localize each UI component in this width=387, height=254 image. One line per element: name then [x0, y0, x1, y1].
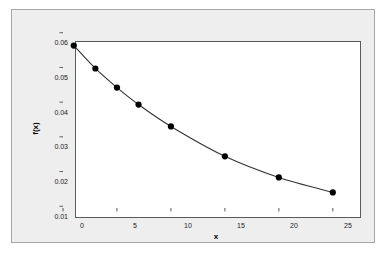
- x-tick-label-15: 15: [231, 222, 251, 230]
- x-tick-label-10: 10: [178, 222, 198, 230]
- y-tick-label-0.06: 0.06: [44, 39, 68, 47]
- y-tick-label-0.05: 0.05: [44, 74, 68, 82]
- y-tick-label-0.03: 0.03: [44, 143, 68, 151]
- chart-screenshot: 0.06 0.05 0.04 0.03 0.02 0.01 0 5 10 15 …: [0, 0, 387, 254]
- x-tick-label-25: 25: [338, 222, 358, 230]
- y-tick-label-0.02: 0.02: [44, 178, 68, 186]
- figure-panel: 0.06 0.05 0.04 0.03 0.02 0.01 0 5 10 15 …: [11, 9, 375, 243]
- y-tick-label-0.04: 0.04: [44, 109, 68, 117]
- x-tick-label-5: 5: [125, 222, 145, 230]
- x-axis-title: x: [198, 232, 234, 241]
- plot-area-frame: [75, 41, 361, 218]
- x-tick-label-0: 0: [72, 222, 92, 230]
- x-tick-label-20: 20: [284, 222, 304, 230]
- y-axis-title: f(x): [31, 114, 40, 144]
- y-tick-label-0.01: 0.01: [44, 213, 68, 221]
